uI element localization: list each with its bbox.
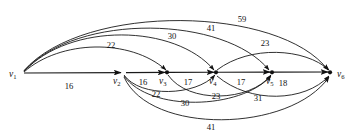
edge-weight-label: 41 <box>207 122 216 132</box>
node-label-v1: v1 <box>9 69 17 80</box>
edge-v1-v5 <box>24 28 269 71</box>
node-label-v3: v3 <box>159 76 167 87</box>
graph-figure: v1v2v3v4v5v6 161617171822304159232223303… <box>0 0 351 139</box>
edge-weight-label: 59 <box>238 14 247 24</box>
edge-weight-label: 23 <box>212 91 221 101</box>
node-dot-v4 <box>214 70 218 74</box>
edge-v1-v6 <box>24 21 328 71</box>
node-label-v2: v2 <box>113 76 121 87</box>
edge-weight-label: 22 <box>107 40 116 50</box>
edge-weight-label: 30 <box>181 98 190 108</box>
node-dot-v6 <box>328 70 332 74</box>
edge-weight-label: 31 <box>254 93 263 103</box>
edge-weight-label: 30 <box>168 31 177 41</box>
edges-layer <box>24 21 329 120</box>
node-dot-v5 <box>270 70 274 74</box>
edge-weight-label: 16 <box>139 77 148 87</box>
edge-weight-label: 16 <box>65 81 74 91</box>
node-label-v5: v5 <box>266 76 274 87</box>
edge-weight-label: 18 <box>279 78 288 88</box>
edge-weight-label: 41 <box>207 23 216 33</box>
edge-weight-label: 17 <box>184 77 193 87</box>
edge-weight-label: 22 <box>152 89 161 99</box>
node-label-v4: v4 <box>209 76 217 87</box>
edge-v1-v3 <box>24 47 166 72</box>
node-label-v6: v6 <box>337 69 345 80</box>
node-dot-v3 <box>165 70 169 74</box>
edge-weight-label: 23 <box>261 38 270 48</box>
edge-v1-v4 <box>24 35 214 72</box>
edge-weight-label: 17 <box>237 77 246 87</box>
graph-canvas: v1v2v3v4v5v6 161617171822304159232223303… <box>0 0 351 139</box>
